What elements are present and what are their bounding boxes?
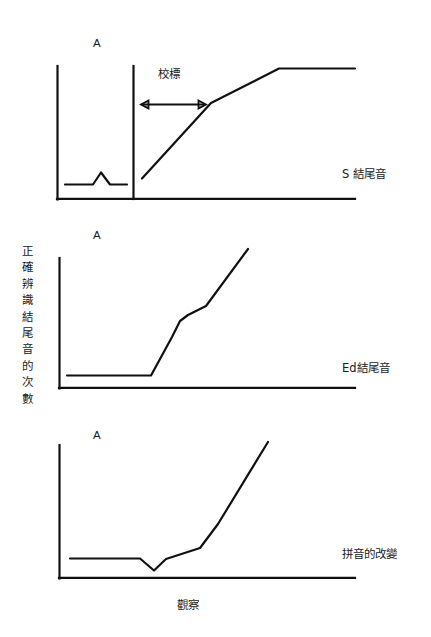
y-axis-label-char-4: 結 bbox=[19, 309, 35, 325]
y-axis-label-char-5: 尾 bbox=[19, 325, 35, 341]
panel-1-criterion-arrow bbox=[141, 101, 206, 109]
panel-2-series-label: Ed結尾音 bbox=[342, 363, 390, 375]
criterion-label: 校標 bbox=[158, 69, 180, 81]
y-axis-label-char-6: 音 bbox=[19, 341, 35, 357]
panel-1-intervention-series bbox=[142, 69, 355, 179]
figure-root: A 校標 S 結尾音 A Ed結尾音 A 拼音的改變 正確辨識結尾音的次數 觀察 bbox=[0, 0, 431, 637]
panel-2-observation-series bbox=[67, 249, 248, 376]
y-axis-label-char-0: 正 bbox=[19, 243, 35, 259]
multi-panel-line-chart bbox=[0, 0, 431, 637]
panel-3-phase-marker: A bbox=[93, 430, 101, 442]
panel-3-series-label: 拼音的改變 bbox=[342, 549, 397, 561]
panel-3-observation-series bbox=[70, 442, 268, 571]
panel-ed-ending-graphics bbox=[59, 249, 355, 389]
panel-1-baseline-series bbox=[65, 173, 127, 185]
panel-spelling-change-graphics bbox=[59, 442, 355, 579]
y-axis-label-char-2: 辨 bbox=[19, 276, 35, 292]
y-axis-label-char-1: 確 bbox=[19, 259, 35, 275]
panel-1-series-label: S 結尾音 bbox=[342, 169, 386, 181]
y-axis-label-char-7: 的 bbox=[19, 358, 35, 374]
panel-1-phase-marker: A bbox=[93, 38, 101, 50]
panel-s-ending-graphics bbox=[57, 66, 355, 200]
y-axis-label-char-8: 次 bbox=[19, 374, 35, 390]
y-axis-label: 正確辨識結尾音的次數 bbox=[19, 243, 35, 407]
panel-2-phase-marker: A bbox=[93, 230, 101, 242]
x-axis-label: 觀察 bbox=[177, 600, 199, 612]
y-axis-label-char-3: 識 bbox=[19, 292, 35, 308]
y-axis-label-char-9: 數 bbox=[19, 391, 35, 407]
